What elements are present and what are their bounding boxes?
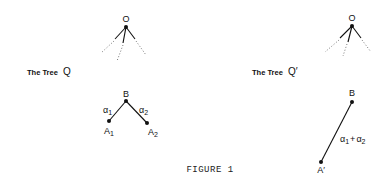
figure-caption: FIGURE 1 <box>186 165 233 175</box>
a2-node <box>145 121 149 125</box>
left-tree-name: Q <box>63 66 71 77</box>
edge-b-aprime <box>321 102 352 162</box>
left-root-label: O <box>122 14 129 24</box>
right-dotted-branch <box>343 44 347 56</box>
edge-label-alpha1: α1 <box>103 105 112 116</box>
right-root-label: O <box>348 13 355 23</box>
left-dotted-branch <box>136 41 146 55</box>
left-root-branch <box>126 27 135 39</box>
a1-label: A1 <box>104 126 114 137</box>
right-dotted-branch <box>325 40 339 52</box>
aprime-node <box>319 160 323 164</box>
right-tree-name: Q′ <box>288 66 298 77</box>
left-subtree: B α1 α2 A1 A2 <box>103 89 158 138</box>
a1-node <box>107 119 111 123</box>
right-subtree: B A′ α1+α2 <box>317 88 365 175</box>
aprime-label: A′ <box>317 165 325 175</box>
left-dotted-branch <box>117 45 123 61</box>
right-b-label: B <box>349 88 355 98</box>
left-tree-title: The Tree Q <box>27 66 71 77</box>
right-root-group: O <box>325 13 371 56</box>
left-dotted-branch <box>101 41 114 53</box>
left-root-group: O <box>101 14 146 61</box>
edge-label-alpha2: α2 <box>139 105 148 116</box>
figure-1-diagram: O The Tree Q B α1 α2 A1 A2 O <box>0 0 391 184</box>
right-root-branch <box>352 26 361 38</box>
right-tree-title: The Tree Q′ <box>252 66 298 77</box>
a2-label: A2 <box>148 127 158 138</box>
left-b-label: B <box>123 89 129 99</box>
right-dotted-branch <box>362 40 371 52</box>
edge-label-alpha-sum: α1+α2 <box>340 134 366 145</box>
